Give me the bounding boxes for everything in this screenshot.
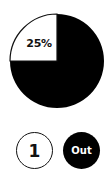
pie-slice-label: 25% [22,37,56,50]
out-button[interactable]: Out [63,132,100,169]
count-label: 1 [29,141,41,161]
pie-chart [0,0,109,120]
out-label: Out [71,145,91,156]
count-button[interactable]: 1 [16,132,53,169]
